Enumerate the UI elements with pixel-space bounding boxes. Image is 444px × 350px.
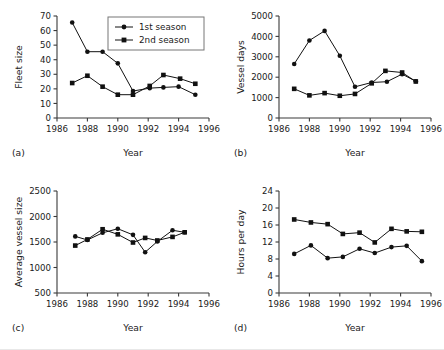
panel-a: 010203040506070198619881990199219941996F…	[0, 0, 222, 175]
data-point-square	[178, 76, 183, 81]
x-tick-label: 1992	[137, 124, 159, 134]
data-point-circle	[353, 84, 358, 89]
x-tick-label: 1986	[268, 124, 290, 134]
y-tick-label: 3000	[251, 52, 273, 62]
legend-label: 1st season	[139, 22, 186, 32]
data-point-square	[85, 73, 90, 78]
x-tick-label: 1990	[329, 124, 351, 134]
x-tick-label: 1990	[107, 124, 129, 134]
y-tick-label: 2000	[29, 212, 51, 222]
x-tick-label: 1988	[298, 299, 320, 309]
x-axis-title: Year	[344, 322, 365, 333]
data-point-square	[131, 92, 136, 97]
panel-b-plot: 0100020003000400050001986198819901992199…	[234, 11, 442, 158]
panel-c: 5001000150020002500198619881990199219941…	[0, 175, 222, 350]
x-tick-label: 1996	[420, 299, 442, 309]
data-point-square	[116, 92, 121, 97]
x-tick-label: 1988	[298, 124, 320, 134]
data-point-circle	[193, 92, 198, 97]
y-tick-label: 60	[40, 26, 51, 36]
y-tick-label: 0	[268, 113, 273, 123]
x-tick-label: 1986	[46, 299, 68, 309]
data-point-circle	[307, 38, 312, 43]
y-tick-label: 1000	[29, 263, 51, 273]
x-axis-title: Year	[122, 147, 143, 158]
data-point-circle	[341, 255, 346, 260]
y-tick-label: 4	[268, 271, 273, 281]
x-tick-label: 1986	[46, 124, 68, 134]
data-point-square	[116, 232, 121, 237]
panel-c-plot: 5001000150020002500198619881990199219941…	[12, 186, 220, 333]
panel-d: 04812162024198619881990199219941996Hours…	[222, 175, 444, 350]
x-tick-label: 1994	[390, 299, 412, 309]
data-point-circle	[143, 250, 148, 255]
data-point-square	[182, 230, 187, 235]
data-point-square	[100, 227, 105, 232]
data-point-circle	[325, 256, 330, 261]
panel-label: (b)	[234, 147, 247, 158]
data-point-square	[325, 222, 330, 227]
data-point-circle	[404, 244, 409, 249]
panel-d-svg: 04812162024198619881990199219941996Hours…	[222, 175, 444, 350]
data-point-circle	[170, 228, 175, 233]
x-tick-label: 1986	[268, 299, 290, 309]
x-tick-label: 1994	[390, 124, 412, 134]
x-tick-label: 1996	[420, 124, 442, 134]
y-tick-label: 2000	[251, 72, 273, 82]
y-tick-label: 10	[40, 99, 51, 109]
data-point-square	[155, 238, 160, 243]
data-point-square	[73, 243, 78, 248]
data-point-square	[161, 73, 166, 78]
data-point-square	[292, 217, 297, 222]
data-point-square	[400, 70, 405, 75]
data-point-circle	[73, 234, 78, 239]
data-point-square	[357, 230, 362, 235]
x-tick-label: 1994	[168, 124, 190, 134]
data-point-circle	[338, 53, 343, 58]
y-tick-label: 500	[35, 288, 51, 298]
data-point-circle	[389, 245, 394, 250]
y-tick-label: 70	[40, 11, 51, 21]
legend-marker-square	[122, 38, 127, 43]
y-tick-label: 50	[40, 40, 51, 50]
y-tick-label: 12	[262, 237, 273, 247]
data-point-circle	[309, 243, 314, 248]
x-tick-label: 1994	[168, 299, 190, 309]
y-tick-label: 20	[262, 203, 273, 213]
data-point-square	[383, 69, 388, 74]
legend-marker-circle	[122, 25, 127, 30]
data-point-circle	[292, 62, 297, 67]
panel-label: (a)	[12, 147, 25, 158]
y-tick-label: 4000	[251, 32, 273, 42]
x-tick-label: 1992	[137, 299, 159, 309]
data-point-square	[70, 81, 75, 86]
panel-label: (c)	[12, 322, 24, 333]
y-tick-label: 5000	[251, 11, 273, 21]
x-axis-title: Year	[344, 147, 365, 158]
x-tick-label: 1990	[329, 299, 351, 309]
data-point-square	[338, 93, 343, 98]
x-tick-label: 1992	[359, 124, 381, 134]
y-tick-label: 24	[262, 186, 273, 196]
y-axis-title: Vessel days	[235, 40, 246, 94]
data-point-square	[85, 237, 90, 242]
y-axis-title: Hours per day	[235, 209, 246, 274]
figure-container: 010203040506070198619881990199219941996F…	[0, 0, 444, 350]
series-line-1st-season	[294, 31, 416, 87]
data-point-circle	[322, 29, 327, 34]
panel-d-plot: 04812162024198619881990199219941996Hours…	[234, 186, 442, 333]
y-axis-title: Average vessel size	[13, 197, 24, 288]
data-point-circle	[116, 226, 121, 231]
y-tick-label: 0	[268, 288, 273, 298]
data-point-circle	[176, 84, 181, 89]
data-point-square	[341, 232, 346, 237]
data-point-square	[389, 227, 394, 232]
data-point-square	[170, 235, 175, 240]
y-tick-label: 30	[40, 69, 51, 79]
y-tick-label: 16	[262, 220, 273, 230]
x-tick-label: 1988	[76, 299, 98, 309]
data-point-square	[131, 240, 136, 245]
x-axis-title: Year	[122, 322, 143, 333]
y-tick-label: 20	[40, 84, 51, 94]
data-point-square	[369, 81, 374, 86]
